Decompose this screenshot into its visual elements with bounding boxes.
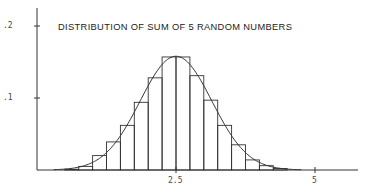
x-tick-label-2.5: 2.5 xyxy=(168,176,182,185)
chart-title: DISTRIBUTION OF SUM OF 5 RANDOM NUMBERS xyxy=(58,22,292,32)
histogram-bar xyxy=(148,78,162,170)
histogram-bar xyxy=(232,145,246,170)
y-tick-label-0.1: .1 xyxy=(3,93,13,102)
y-tick-label-0.2: .2 xyxy=(3,21,13,30)
histogram-bar xyxy=(134,102,148,170)
histogram-bar xyxy=(162,57,176,170)
x-tick-label-5: 5 xyxy=(312,176,317,185)
density-curve xyxy=(54,56,301,170)
histogram-bar xyxy=(204,100,218,170)
histogram-chart: DISTRIBUTION OF SUM OF 5 RANDOM NUMBERS … xyxy=(0,0,374,191)
histogram-bar xyxy=(176,57,190,170)
histogram-bar xyxy=(190,76,204,170)
histogram-bar xyxy=(107,142,121,170)
